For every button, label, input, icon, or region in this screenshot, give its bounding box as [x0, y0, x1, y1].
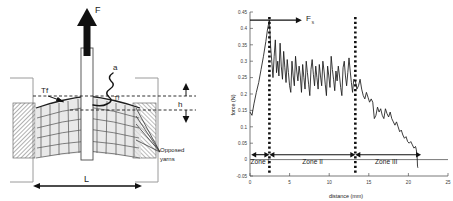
y-tick-label: 0.4	[241, 26, 248, 31]
zone-3-arrow-right	[416, 152, 421, 158]
clamp-left	[13, 103, 35, 158]
x-tick-label: 0	[249, 180, 252, 185]
peak-force-label-subscript: S	[311, 20, 314, 25]
curve-layer	[250, 20, 418, 168]
figure-root: F Tf a Tf h	[0, 0, 453, 201]
height-dimension	[183, 83, 190, 123]
force-distance-chart: -0.0500.050.10.150.20.250.30.350.40.4505…	[226, 0, 453, 201]
tension-left-label: Tf	[41, 86, 49, 95]
y-tick-label: 0.35	[238, 43, 247, 48]
pull-bar	[81, 48, 93, 160]
y-tick-label: 0.15	[238, 108, 247, 113]
y-tick-label: 0.45	[238, 10, 247, 15]
zone-2-label: Zone II	[302, 158, 323, 165]
y-axis-title: force (N)	[230, 94, 236, 115]
opposed-yarns-label-line2: yarns	[160, 156, 175, 162]
zone-3-label: Zone III	[375, 158, 398, 165]
force-arrow	[77, 8, 97, 56]
schematic-svg: F Tf a Tf h	[0, 0, 226, 201]
tension-left-arrow	[48, 96, 64, 102]
y-tick-label: -0.05	[237, 174, 248, 179]
length-label: L	[84, 174, 89, 184]
y-tick-label: 0.05	[238, 141, 247, 146]
opposed-yarns-label-line1: Opposed	[160, 147, 184, 153]
zone-1-arrow-left	[251, 152, 256, 158]
tear-test-schematic-panel: F Tf a Tf h	[0, 0, 226, 201]
zone-1-label: Zone I	[251, 158, 270, 165]
x-tick-label: 25	[445, 180, 451, 185]
x-axis-title: distance (mm)	[329, 193, 363, 199]
x-tick-label: 15	[366, 180, 372, 185]
crack-label: a	[113, 63, 118, 72]
y-tick-label: 0	[244, 157, 247, 162]
peak-force-label: F	[306, 14, 311, 23]
height-label: h	[178, 100, 182, 109]
force-distance-plot-panel: -0.0500.050.10.150.20.250.30.350.40.4505…	[226, 0, 453, 201]
peak-force-arrow-head	[296, 17, 302, 23]
y-tick-label: 0.25	[238, 75, 247, 80]
x-tick-label: 20	[406, 180, 412, 185]
force-arrow-label: F	[95, 5, 101, 15]
y-tick-label: 0.2	[241, 92, 248, 97]
x-tick-label: 5	[288, 180, 291, 185]
x-tick-label: 10	[327, 180, 333, 185]
y-tick-label: 0.1	[241, 125, 248, 130]
force-curve	[250, 20, 418, 168]
annotations-layer: FSZone IZone IIZone III	[250, 14, 421, 174]
y-tick-label: 0.3	[241, 59, 248, 64]
